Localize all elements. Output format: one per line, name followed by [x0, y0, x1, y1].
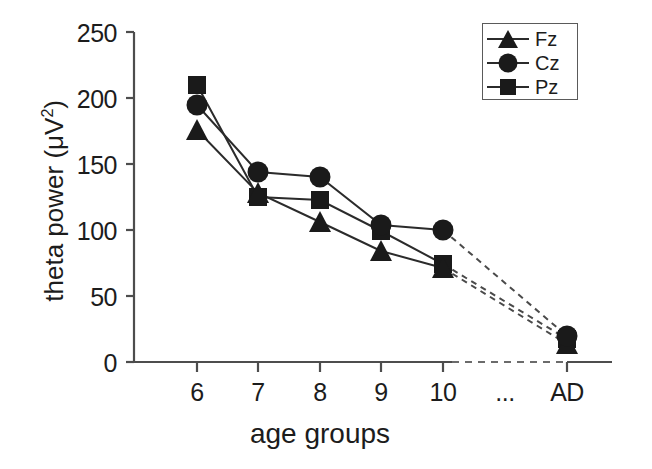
- legend: Fz Cz Pz: [482, 23, 578, 100]
- x-tick-label-6: 6: [162, 378, 232, 407]
- series-markers-pz: [188, 76, 576, 348]
- y-axis-title-superscript: 2: [38, 109, 56, 118]
- y-axis-title: theta power (μV2): [38, 51, 70, 351]
- x-tick-label-7: 7: [223, 378, 293, 407]
- y-tick-label-0: 0: [17, 349, 117, 378]
- x-tick-label-ellipsis: ...: [470, 378, 540, 407]
- legend-label-pz: Pz: [535, 77, 558, 97]
- x-tick-label-ad: AD: [532, 378, 602, 407]
- x-tick-label-8: 8: [285, 378, 355, 407]
- legend-item-pz: Pz: [483, 74, 579, 99]
- series-markers-cz: [187, 95, 578, 347]
- x-tick-label-10: 10: [408, 378, 478, 407]
- legend-item-cz: Cz: [483, 50, 579, 75]
- chart-figure: 250 200 150 100 50 0 6 7 8 9 10 ... AD t…: [0, 0, 652, 469]
- x-axis-title: age groups: [185, 418, 455, 450]
- legend-marker-circle-icon: [483, 51, 533, 75]
- legend-item-fz: Fz: [483, 26, 579, 51]
- y-tick-label-250: 250: [17, 19, 117, 48]
- x-tick-label-9: 9: [346, 378, 416, 407]
- legend-label-cz: Cz: [535, 53, 559, 73]
- legend-marker-triangle-icon: [483, 27, 533, 51]
- legend-label-fz: Fz: [535, 29, 557, 49]
- y-axis-title-tail: ): [39, 100, 69, 109]
- legend-marker-square-icon: [483, 75, 533, 99]
- y-axis-title-main: theta power (μV: [39, 118, 69, 302]
- series-line-pz: [197, 85, 567, 339]
